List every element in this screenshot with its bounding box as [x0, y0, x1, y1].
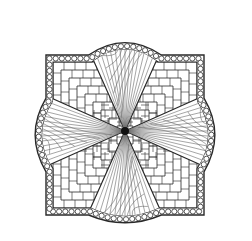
border-circle	[47, 56, 52, 61]
border-circle	[196, 209, 201, 214]
border-circle	[137, 46, 142, 51]
border-circle	[46, 99, 51, 104]
border-circle	[53, 56, 58, 61]
border-circle	[111, 216, 116, 221]
border-circle	[204, 156, 209, 161]
border-circle	[81, 209, 86, 214]
border-circle	[99, 213, 104, 218]
border-circle	[172, 209, 177, 214]
border-circle	[206, 150, 211, 155]
border-circle	[201, 103, 206, 108]
border-circle	[45, 164, 50, 169]
border-circle	[37, 122, 42, 127]
border-circle	[69, 209, 74, 214]
border-circle	[201, 162, 206, 167]
border-circle	[159, 56, 164, 61]
border-circle	[198, 72, 203, 77]
border-circle	[165, 56, 170, 61]
border-circle	[171, 56, 176, 61]
border-circle	[136, 216, 141, 221]
border-circle	[148, 213, 153, 218]
border-circle	[198, 60, 203, 65]
border-circle	[118, 44, 123, 49]
border-circle	[207, 144, 212, 149]
border-circle	[142, 214, 147, 219]
border-circle	[198, 167, 203, 172]
border-circle	[204, 108, 209, 113]
border-circle	[63, 209, 68, 214]
border-circle	[95, 51, 100, 56]
border-circle	[159, 209, 164, 214]
border-circle	[47, 93, 52, 98]
border-circle	[198, 198, 203, 203]
border-circle	[198, 173, 203, 178]
border-circle	[47, 181, 52, 186]
border-circle	[47, 169, 52, 174]
border-circle	[105, 215, 110, 220]
border-circle	[198, 66, 203, 71]
border-circle	[43, 104, 48, 109]
border-circle	[36, 134, 41, 139]
border-circle	[209, 132, 214, 137]
border-circle	[47, 74, 52, 79]
border-circle	[123, 217, 128, 222]
border-circle	[42, 158, 47, 163]
border-circle	[47, 87, 52, 92]
border-circle	[142, 48, 147, 53]
border-circle	[84, 56, 89, 61]
border-circle	[198, 79, 203, 84]
border-circle	[117, 216, 122, 221]
border-circle	[206, 114, 211, 119]
border-circle	[47, 194, 52, 199]
border-circle	[190, 56, 195, 61]
border-circle	[87, 209, 92, 214]
border-circle	[198, 91, 203, 96]
border-circle	[131, 44, 136, 49]
border-circle	[59, 56, 64, 61]
mandala-drawing	[0, 0, 252, 241]
border-circle	[130, 216, 135, 221]
border-circle	[207, 120, 212, 125]
border-circle	[47, 200, 52, 205]
border-circle	[38, 116, 43, 121]
border-circle	[166, 209, 171, 214]
border-circle	[47, 188, 52, 193]
border-circle	[36, 128, 41, 133]
border-circle	[90, 54, 95, 59]
border-circle	[148, 50, 153, 55]
border-circle	[208, 126, 213, 131]
border-circle	[184, 56, 189, 61]
center-dot	[121, 127, 129, 135]
border-circle	[153, 53, 158, 58]
border-circle	[47, 62, 52, 67]
border-circle	[65, 56, 70, 61]
border-circle	[198, 186, 203, 191]
border-circle	[198, 192, 203, 197]
border-circle	[75, 209, 80, 214]
border-circle	[112, 45, 117, 50]
border-circle	[208, 138, 213, 143]
border-circle	[124, 44, 129, 49]
border-circle	[38, 146, 43, 151]
border-circle	[177, 56, 182, 61]
border-circle	[184, 209, 189, 214]
border-circle	[93, 211, 98, 216]
border-circle	[198, 97, 203, 102]
border-circle	[37, 140, 42, 145]
border-circle	[57, 209, 62, 214]
border-circle	[198, 179, 203, 184]
border-circle	[106, 46, 111, 51]
border-circle	[190, 209, 195, 214]
border-circle	[47, 206, 52, 211]
border-circle	[100, 48, 105, 53]
border-circle	[40, 110, 45, 115]
border-circle	[47, 81, 52, 86]
border-circle	[78, 56, 83, 61]
border-circle	[178, 209, 183, 214]
border-circle	[47, 68, 52, 73]
border-circle	[40, 152, 45, 157]
border-circle	[198, 85, 203, 90]
border-circle	[72, 56, 77, 61]
border-circle	[153, 210, 158, 215]
border-circle	[47, 175, 52, 180]
